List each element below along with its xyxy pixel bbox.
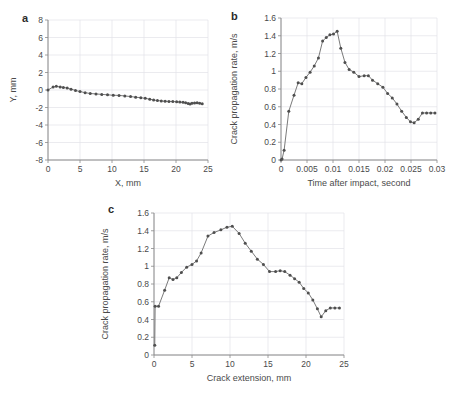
data-point-marker [324,309,327,312]
data-point-marker [153,344,156,347]
data-point-marker [193,101,196,104]
data-point-marker [168,276,171,279]
y-tick-label: 1.6 [264,13,276,23]
data-point-marker [283,149,286,152]
data-point-marker [231,225,234,228]
data-point-marker [348,68,351,71]
data-point-marker [395,103,398,106]
data-point-marker [160,99,163,102]
data-point-marker [381,86,384,89]
data-point-marker [386,92,389,95]
data-series-line [155,226,340,345]
x-tick-label: 0 [279,164,284,174]
data-point-marker [144,97,147,100]
data-point-marker [123,94,126,97]
data-point-marker [274,270,277,273]
x-tick-label: 0.025 [400,164,422,174]
data-point-marker [139,96,142,99]
data-point-marker [304,76,307,79]
data-point-marker [62,86,65,89]
data-point-marker [328,33,331,36]
data-point-marker [95,92,98,95]
y-tick-label: 0.6 [137,297,149,307]
y-tick-label: 0.8 [264,84,276,94]
data-point-marker [185,266,188,269]
x-tick-label: 10 [225,359,235,369]
panel-a: a 0510152025-8-6-4-202468X, mmY, mm [0,0,226,196]
y-tick-label: 1 [271,66,276,76]
data-point-marker [302,287,305,290]
data-point-marker [238,232,241,235]
data-point-marker [293,277,296,280]
data-point-marker [52,85,55,88]
data-point-marker [363,74,366,77]
x-tick-label: 20 [301,359,311,369]
y-tick-label: 1.6 [137,208,149,218]
data-point-marker [134,96,137,99]
data-point-marker [307,291,310,294]
y-tick-label: -8 [35,155,43,165]
data-point-marker [66,87,69,90]
data-point-marker [417,118,420,121]
data-point-marker [287,110,290,113]
data-point-marker [191,263,194,266]
data-point-marker [195,259,198,262]
data-point-marker [332,32,335,35]
data-point-marker [256,258,259,261]
data-point-marker [316,307,319,310]
data-point-marker [336,30,339,33]
panel-c: c 051015202500.20.40.60.811.21.41.6Crack… [86,195,371,393]
data-point-marker [167,100,170,103]
x-tick-label: 25 [339,359,349,369]
y-tick-label: 1.4 [264,31,276,41]
data-point-marker [182,101,185,104]
x-tick-label: 15 [263,359,273,369]
data-point-marker [429,111,432,114]
data-point-marker [118,94,121,97]
data-point-marker [400,110,403,113]
data-point-marker [325,36,328,39]
data-point-marker [180,271,183,274]
data-point-marker [281,158,284,161]
data-point-marker [298,281,301,284]
data-point-marker [352,71,355,74]
data-point-marker [268,270,271,273]
data-point-marker [376,82,379,85]
data-point-marker [250,250,253,253]
data-point-marker [59,85,62,88]
x-tick-label: 0 [152,359,157,369]
data-point-marker [129,95,132,98]
data-point-marker [74,89,77,92]
x-axis-title: Crack extension, mm [207,373,292,383]
data-point-marker [152,99,155,102]
x-axis-title: X, mm [115,178,141,188]
data-point-marker [321,40,324,43]
data-point-marker [338,306,341,309]
data-point-marker [289,274,292,277]
y-tick-label: -6 [35,138,43,148]
data-point-marker [164,100,167,103]
x-tick-label: 0.01 [325,164,342,174]
data-point-marker [191,102,194,105]
data-point-marker [196,101,199,104]
data-point-marker [244,242,247,245]
data-point-marker [279,269,282,272]
y-axis-title: Crack propagation rate, m/s [100,228,110,340]
data-point-marker [70,88,73,91]
data-point-marker [172,278,175,281]
y-tick-label: 0.4 [264,120,276,130]
x-tick-label: 10 [107,164,117,174]
panel-b-chart: 00.0050.010.0150.020.0250.0300.20.40.60.… [223,0,451,196]
y-tick-label: 0 [271,155,276,165]
data-point-marker [409,120,412,123]
x-axis-title: Time after impact, second [307,178,410,188]
y-axis-title: Crack propagation rate, m/s [229,33,239,145]
x-tick-label: 0.015 [348,164,370,174]
panel-b: b 00.0050.010.0150.020.0250.0300.20.40.6… [223,0,451,196]
data-point-marker [219,228,222,231]
data-point-marker [201,102,204,105]
data-point-marker [421,111,424,114]
data-point-marker [371,79,374,82]
data-point-marker [313,64,316,67]
data-point-marker [339,47,342,50]
